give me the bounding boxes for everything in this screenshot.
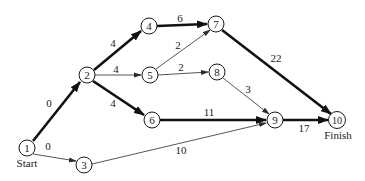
- node-label-4: 4: [146, 20, 152, 32]
- node-5: 5: [142, 67, 158, 83]
- edge-label-5-7: 2: [175, 39, 181, 51]
- edge-label-8-9: 3: [245, 83, 251, 95]
- edge-labels: 0 0 4 4 4 6 2 2 11 10 3 22 17: [45, 12, 310, 156]
- node-label-8: 8: [214, 66, 220, 78]
- edge-2-6: [93, 81, 144, 115]
- node-label-3: 3: [81, 159, 87, 171]
- node-3: 3: [76, 157, 92, 173]
- node-2: 2: [79, 67, 95, 83]
- node-label-6: 6: [149, 114, 155, 126]
- node-label-1: 1: [24, 142, 30, 154]
- node-label-5: 5: [147, 69, 153, 81]
- node-4: 4: [141, 18, 157, 34]
- node-label-9: 9: [272, 114, 278, 126]
- node-6: 6: [144, 112, 160, 128]
- node-9: 9: [267, 112, 283, 128]
- edge-label-2-6: 4: [110, 97, 116, 109]
- edge-label-2-4: 4: [110, 37, 116, 49]
- edge-label-1-3: 0: [45, 140, 51, 152]
- edges: [33, 24, 331, 164]
- node-label-10: 10: [332, 115, 342, 126]
- edge-7-10: [222, 30, 331, 114]
- edge-1-3: [33, 154, 76, 161]
- edge-label-2-5: 4: [113, 63, 119, 75]
- edge-label-5-8: 2: [178, 61, 184, 73]
- node-8: 8: [209, 64, 225, 80]
- node-label-7: 7: [213, 18, 219, 30]
- edge-label-6-9: 11: [204, 106, 215, 118]
- node-label-2: 2: [84, 69, 90, 81]
- finish-caption: Finish: [324, 129, 352, 141]
- edge-label-9-10: 17: [299, 122, 311, 134]
- edge-label-7-10: 22: [271, 52, 282, 64]
- edge-label-1-2: 0: [46, 97, 52, 109]
- node-1: 1: [19, 140, 35, 156]
- network-diagram: 0 0 4 4 4 6 2 2 11 10 3 22 17 1 2 3 4: [0, 0, 365, 181]
- edge-4-7: [157, 24, 207, 26]
- node-10: 10: [329, 112, 346, 129]
- edge-1-2: [33, 82, 80, 141]
- node-7: 7: [208, 16, 224, 32]
- edge-label-3-9: 10: [176, 144, 188, 156]
- start-caption: Start: [17, 157, 38, 169]
- edge-label-4-7: 6: [177, 12, 183, 24]
